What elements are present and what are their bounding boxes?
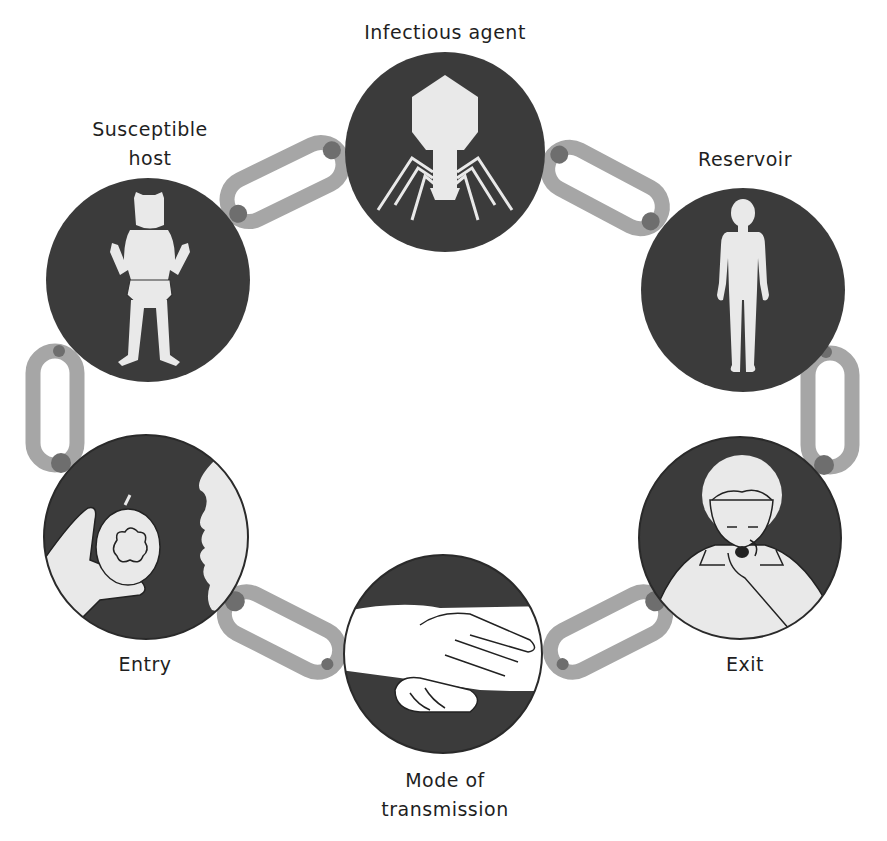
- node-mode-of-transmission: [340, 555, 560, 753]
- label-line: transmission: [381, 795, 508, 824]
- label-line: Mode of: [381, 766, 508, 795]
- chain-link-exit-transmission: [543, 582, 677, 679]
- chain-link-host-agent: [217, 134, 353, 231]
- label-infectious-agent: Infectious agent: [364, 18, 526, 47]
- label-entry: Entry: [118, 650, 171, 679]
- node-infectious-agent: [345, 52, 545, 252]
- label-line: Infectious agent: [364, 18, 526, 47]
- node-susceptible-host: [46, 178, 250, 382]
- label-line: host: [92, 144, 207, 173]
- chain-link-transmission-entry: [213, 582, 347, 679]
- label-line: Reservoir: [698, 145, 792, 174]
- label-exit: Exit: [726, 650, 764, 679]
- label-line: Entry: [118, 650, 171, 679]
- label-line: Exit: [726, 650, 764, 679]
- chain-link-reservoir-exit: [808, 346, 852, 475]
- label-line: Susceptible: [92, 115, 207, 144]
- chain-link-agent-reservoir: [537, 138, 672, 238]
- chain-link-entry-host: [33, 345, 77, 473]
- label-mode-of-transmission: Mode of transmission: [381, 766, 508, 824]
- label-reservoir: Reservoir: [698, 145, 792, 174]
- node-reservoir: [641, 188, 845, 392]
- label-susceptible-host: Susceptible host: [92, 115, 207, 173]
